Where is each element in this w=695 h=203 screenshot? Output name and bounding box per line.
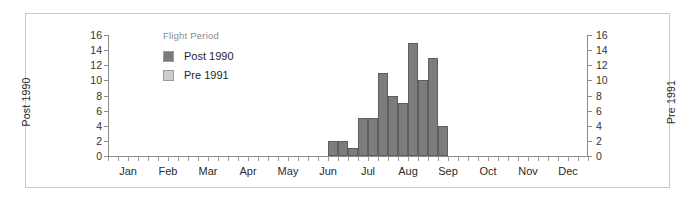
x-tick-label-dec: Dec — [546, 165, 590, 177]
plot-area: 0246810121416 0246810121416 JanFebMarApr… — [108, 35, 588, 157]
x-tick-label-feb: Feb — [146, 165, 190, 177]
x-tick-45 — [558, 157, 559, 161]
x-tick-label-sep: Sep — [426, 165, 470, 177]
bar[interactable] — [328, 141, 338, 156]
x-tick-41 — [518, 157, 519, 161]
x-tick-4 — [148, 157, 149, 161]
y-tick-label-right-8: 8 — [596, 91, 626, 102]
x-tick-8 — [188, 157, 189, 161]
x-tick-2 — [128, 157, 129, 161]
bar[interactable] — [348, 148, 358, 156]
y-tick-left-2 — [104, 141, 108, 142]
x-tick-label-may: May — [266, 165, 310, 177]
x-tick-26 — [368, 157, 369, 161]
y-tick-left-10 — [104, 80, 108, 81]
x-tick-6 — [168, 157, 169, 161]
x-tick-19 — [298, 157, 299, 161]
y-tick-left-4 — [104, 126, 108, 127]
y-tick-left-12 — [104, 65, 108, 66]
bar[interactable] — [418, 80, 428, 156]
y-tick-right-4 — [588, 126, 592, 127]
y-axis-right-title: Pre 1991 — [665, 62, 677, 142]
x-tick-40 — [508, 157, 509, 161]
x-tick-9 — [198, 157, 199, 161]
x-tick-18 — [288, 157, 289, 161]
y-tick-label-left-16: 16 — [72, 30, 102, 41]
x-tick-12 — [228, 157, 229, 161]
x-tick-25 — [358, 157, 359, 161]
bar[interactable] — [378, 73, 388, 156]
y-tick-label-left-6: 6 — [72, 106, 102, 117]
x-tick-label-aug: Aug — [386, 165, 430, 177]
y-tick-left-8 — [104, 96, 108, 97]
x-tick-label-oct: Oct — [466, 165, 510, 177]
y-tick-right-2 — [588, 141, 592, 142]
x-tick-7 — [178, 157, 179, 161]
y-tick-label-right-10: 10 — [596, 75, 626, 86]
x-tick-3 — [138, 157, 139, 161]
y-tick-right-16 — [588, 35, 592, 36]
y-tick-left-16 — [104, 35, 108, 36]
x-tick-31 — [418, 157, 419, 161]
x-tick-33 — [438, 157, 439, 161]
x-tick-36 — [468, 157, 469, 161]
x-tick-label-jul: Jul — [346, 165, 390, 177]
bar[interactable] — [398, 103, 408, 156]
x-tick-0 — [108, 157, 109, 161]
x-tick-34 — [448, 157, 449, 161]
bar[interactable] — [388, 96, 398, 157]
x-tick-label-mar: Mar — [186, 165, 230, 177]
x-tick-38 — [488, 157, 489, 161]
y-tick-label-left-4: 4 — [72, 121, 102, 132]
x-tick-46 — [568, 157, 569, 161]
y-tick-label-right-6: 6 — [596, 106, 626, 117]
y-tick-right-12 — [588, 65, 592, 66]
x-tick-20 — [308, 157, 309, 161]
bar[interactable] — [358, 118, 368, 156]
x-tick-42 — [528, 157, 529, 161]
y-tick-right-10 — [588, 80, 592, 81]
x-tick-47 — [578, 157, 579, 161]
x-tick-17 — [278, 157, 279, 161]
x-tick-label-nov: Nov — [506, 165, 550, 177]
y-tick-right-8 — [588, 96, 592, 97]
y-tick-label-left-12: 12 — [72, 60, 102, 71]
x-tick-1 — [118, 157, 119, 161]
bar[interactable] — [368, 118, 378, 156]
x-tick-11 — [218, 157, 219, 161]
x-tick-15 — [258, 157, 259, 161]
x-tick-10 — [208, 157, 209, 161]
y-tick-label-right-4: 4 — [596, 121, 626, 132]
x-tick-23 — [338, 157, 339, 161]
x-tick-13 — [238, 157, 239, 161]
x-tick-24 — [348, 157, 349, 161]
y-tick-label-right-12: 12 — [596, 60, 626, 71]
y-tick-label-left-0: 0 — [72, 151, 102, 162]
x-tick-label-jun: Jun — [306, 165, 350, 177]
y-tick-label-right-16: 16 — [596, 30, 626, 41]
x-tick-32 — [428, 157, 429, 161]
y-tick-label-right-2: 2 — [596, 136, 626, 147]
y-tick-label-left-2: 2 — [72, 136, 102, 147]
bar[interactable] — [428, 58, 438, 156]
x-tick-39 — [498, 157, 499, 161]
y-tick-label-left-10: 10 — [72, 75, 102, 86]
x-tick-label-jan: Jan — [106, 165, 150, 177]
x-tick-30 — [408, 157, 409, 161]
y-tick-label-right-0: 0 — [596, 151, 626, 162]
y-tick-left-14 — [104, 50, 108, 51]
x-tick-14 — [248, 157, 249, 161]
y-tick-right-6 — [588, 111, 592, 112]
y-axis-left-title: Post 1990 — [20, 62, 32, 142]
bar[interactable] — [408, 43, 418, 156]
bar[interactable] — [438, 126, 448, 156]
x-tick-27 — [378, 157, 379, 161]
y-tick-left-6 — [104, 111, 108, 112]
y-tick-right-14 — [588, 50, 592, 51]
x-tick-label-apr: Apr — [226, 165, 270, 177]
x-tick-44 — [548, 157, 549, 161]
y-tick-label-right-14: 14 — [596, 45, 626, 56]
x-tick-37 — [478, 157, 479, 161]
bar[interactable] — [338, 141, 348, 156]
y-axis-left-spine — [108, 35, 109, 157]
